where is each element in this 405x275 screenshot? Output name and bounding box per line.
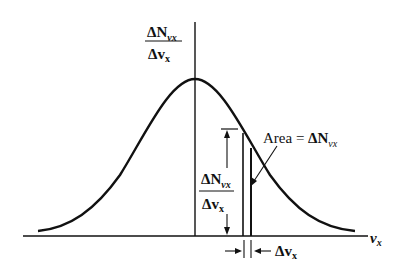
- width-label: Δvx: [275, 243, 297, 261]
- y-axis-label: ΔNvx Δvx: [145, 24, 182, 64]
- height-label: ΔNvx Δvx: [199, 171, 234, 214]
- height-label-denominator-subscript: x: [219, 203, 224, 214]
- width-arrow-right-head: [254, 248, 261, 254]
- x-axis-label: vx: [370, 230, 382, 248]
- svg-text:Δvx: Δvx: [202, 196, 224, 214]
- gaussian-curve: [38, 79, 355, 231]
- svg-text:Δvx: Δvx: [148, 46, 170, 64]
- width-label-text: Δv: [275, 243, 292, 259]
- height-arrow-down-head: [224, 227, 230, 235]
- y-label-denominator-subscript: x: [165, 53, 170, 64]
- svg-text:ΔNvx: ΔNvx: [201, 171, 231, 190]
- height-label-denominator: Δv: [202, 196, 219, 212]
- width-label-subscript: x: [292, 250, 297, 261]
- y-label-numerator: ΔN: [147, 24, 167, 40]
- area-label: Area = ΔNvx: [263, 130, 338, 149]
- height-label-numerator: ΔN: [201, 171, 221, 187]
- svg-text:ΔNvx: ΔNvx: [147, 24, 177, 43]
- area-pointer-shaft: [254, 146, 277, 181]
- height-arrow-up-head: [224, 130, 230, 138]
- x-label-subscript: x: [376, 237, 382, 248]
- height-label-numerator-subscript: vx: [221, 179, 230, 190]
- gaussian-diagram: ΔNvx Δvx vx Area = ΔNvx ΔNvx Δvx Δvx: [0, 0, 405, 275]
- area-label-prefix: Area =: [263, 130, 308, 146]
- width-arrow-left-head: [235, 248, 242, 254]
- y-label-denominator: Δv: [148, 46, 165, 62]
- area-label-subscript: vx: [328, 138, 337, 149]
- area-label-symbol: ΔN: [308, 130, 328, 146]
